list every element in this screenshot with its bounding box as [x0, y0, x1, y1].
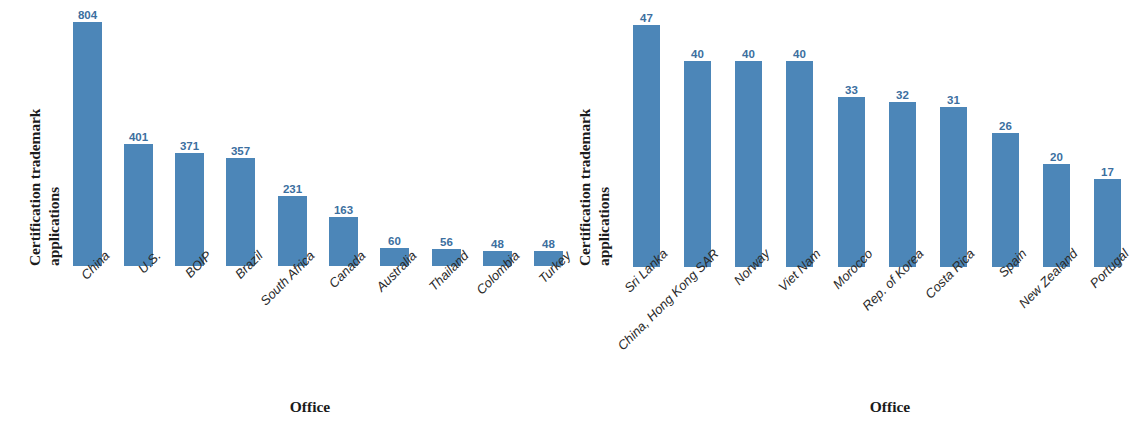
- bar-group: 231: [278, 156, 307, 266]
- bar[interactable]: [735, 61, 762, 267]
- chart-panel-right: Certification trademark applications 47S…: [557, 0, 1117, 424]
- bar-group: 17: [1094, 139, 1121, 267]
- bar[interactable]: [73, 22, 102, 266]
- bar-group: 33: [838, 57, 865, 267]
- bar-group: 47: [633, 0, 660, 267]
- bar-group: 40: [684, 21, 711, 267]
- bar-value-label: 48: [491, 238, 504, 250]
- bar-value-label: 33: [845, 84, 858, 96]
- chart-panel-left: Certification trademark applications 804…: [0, 0, 557, 424]
- bar[interactable]: [992, 133, 1019, 267]
- bar-value-label: 56: [440, 236, 453, 248]
- bar-value-label: 40: [793, 48, 806, 60]
- plot-area-right: 47Sri Lanka40China, Hong Kong SAR40Norwa…: [617, 0, 1112, 267]
- bar-value-label: 26: [999, 120, 1012, 132]
- bar-value-label: 47: [640, 12, 653, 24]
- x-axis-title-right: Office: [870, 398, 910, 416]
- bar-value-label: 31: [947, 94, 960, 106]
- bar-value-label: 371: [180, 140, 199, 152]
- bar-value-label: 17: [1101, 166, 1114, 178]
- bar-value-label: 401: [129, 131, 148, 143]
- bar-group: 40: [786, 21, 813, 267]
- bar-group: 32: [889, 62, 916, 267]
- bar[interactable]: [889, 102, 916, 267]
- bar[interactable]: [226, 158, 255, 266]
- bar-group: 371: [175, 113, 204, 266]
- bar-value-label: 48: [542, 238, 555, 250]
- bar[interactable]: [684, 61, 711, 267]
- x-axis-title-left: Office: [290, 398, 330, 416]
- bar-group: 26: [992, 93, 1019, 267]
- bar-value-label: 357: [231, 145, 250, 157]
- y-axis-title-right: Certification trademark applications: [557, 0, 617, 270]
- bar-group: 804: [73, 0, 102, 266]
- bar-group: 357: [226, 118, 255, 266]
- bar-value-label: 40: [691, 48, 704, 60]
- bar-group: 31: [940, 67, 967, 267]
- bar-value-label: 40: [742, 48, 755, 60]
- bar[interactable]: [838, 97, 865, 267]
- bar-group: 20: [1043, 124, 1070, 267]
- bar-value-label: 804: [78, 9, 97, 21]
- bar[interactable]: [175, 153, 204, 266]
- bar-value-label: 231: [283, 183, 302, 195]
- bar[interactable]: [940, 107, 967, 267]
- bar-value-label: 20: [1050, 151, 1063, 163]
- y-axis-title-line2: applications: [595, 187, 613, 266]
- y-axis-title-left: Certification trademark applications: [0, 0, 60, 270]
- bar-group: 40: [735, 21, 762, 267]
- plot-area-left: 804China401U.S.371BOIP357Brazil231South …: [56, 0, 551, 266]
- bar-group: 401: [124, 104, 153, 266]
- y-axis-title-line1: Certification trademark: [26, 109, 44, 266]
- bar[interactable]: [633, 25, 660, 267]
- bar-value-label: 163: [334, 204, 353, 216]
- bar[interactable]: [786, 61, 813, 267]
- bar-value-label: 60: [388, 235, 401, 247]
- bar[interactable]: [124, 144, 153, 266]
- bar-value-label: 32: [896, 89, 909, 101]
- y-axis-title-line1: Certification trademark: [576, 109, 594, 266]
